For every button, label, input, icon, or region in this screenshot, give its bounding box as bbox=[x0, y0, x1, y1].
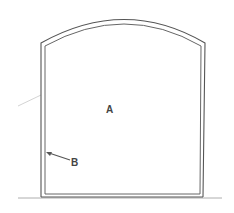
label-b-arrow bbox=[49, 153, 70, 160]
inner-wall-outline bbox=[45, 24, 201, 194]
label-b: B bbox=[71, 157, 78, 168]
outer-wall-outline bbox=[41, 20, 205, 198]
label-a: A bbox=[106, 104, 113, 115]
arched-enclosure-diagram: A B bbox=[0, 0, 234, 213]
faint-leader-line bbox=[18, 95, 41, 106]
